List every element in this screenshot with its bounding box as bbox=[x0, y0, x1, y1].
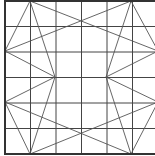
diagonal-segment bbox=[106, 77, 131, 154]
diagonal-segment bbox=[30, 77, 55, 154]
geometric-grid-diagram bbox=[0, 0, 155, 156]
grid-lines bbox=[5, 1, 155, 154]
